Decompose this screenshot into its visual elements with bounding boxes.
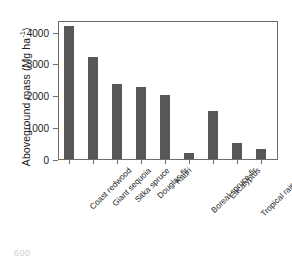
cropped-artifact-text: 600 <box>14 249 31 256</box>
x-tick-mark-0 <box>69 160 70 164</box>
x-tick-label-tropical-rainforest: Tropical rainforest <box>259 166 292 218</box>
y-tick-label-3000: 3000 <box>0 60 49 70</box>
x-tick-mark-3 <box>141 160 142 164</box>
y-tick-label-0: 0 <box>0 156 49 166</box>
bar-kauri <box>160 95 170 159</box>
y-tick-label-1000: 1000 <box>0 124 49 134</box>
x-tick-mark-2 <box>117 160 118 164</box>
x-tick-mark-4 <box>165 160 166 164</box>
x-tick-mark-6 <box>213 160 214 164</box>
x-tick-mark-5 <box>189 160 190 164</box>
bar-douglas-fir <box>136 87 146 159</box>
bar-giant-sequoia <box>88 57 98 159</box>
x-tick-mark-7 <box>237 160 238 164</box>
bar-coast-redwood <box>64 26 74 159</box>
x-tick-label-kauri: Kauri <box>174 166 194 186</box>
y-tick-label-2000: 2000 <box>0 92 49 102</box>
x-tick-mark-8 <box>261 160 262 164</box>
x-tick-mark-1 <box>93 160 94 164</box>
y-axis-label-text: Aboveground mass (Mg ha <box>20 38 32 166</box>
y-tick-label-4000: 4000 <box>0 29 49 39</box>
bar-eucalyptus <box>208 111 218 159</box>
bar-tropical-rainforest <box>232 143 242 159</box>
bar-sitka-spruce <box>112 84 122 159</box>
bar-boreal-spruce-fir <box>184 153 194 159</box>
bar-chart-figure: Aboveground mass (Mg ha-1) 0 1000 2000 3… <box>0 0 292 261</box>
bar-temperate-deciduous-forest <box>256 149 266 160</box>
y-tick-mark-0 <box>53 160 58 161</box>
